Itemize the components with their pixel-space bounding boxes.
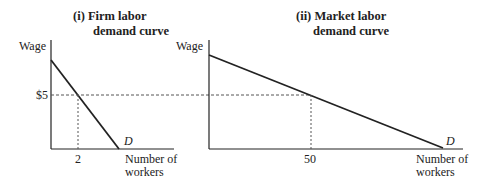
market-title-line1: (ii) Market labor	[296, 9, 387, 23]
market-y-axis-label: Wage	[176, 39, 203, 53]
firm-curve-label: D	[123, 134, 133, 148]
firm-panel: (i) Firm labor demand curve Wage $5 2 D …	[19, 9, 177, 179]
market-x-axis-label-line1: Number of	[416, 152, 468, 166]
market-x-axis-label-line2: workers	[416, 165, 455, 179]
firm-title-line1: (i) Firm labor	[73, 9, 147, 23]
wage-tick-label: $5	[36, 88, 48, 102]
firm-demand-curve	[51, 60, 119, 149]
firm-title-line2: demand curve	[93, 24, 169, 38]
market-quantity-tick: 50	[304, 152, 316, 166]
firm-x-axis-label-line2: workers	[125, 165, 164, 179]
market-demand-curve	[209, 55, 443, 148]
market-panel: (ii) Market labor demand curve Wage 50 D…	[176, 9, 468, 179]
labor-demand-diagram: (i) Firm labor demand curve Wage $5 2 D …	[0, 0, 481, 187]
firm-quantity-tick: 2	[75, 152, 81, 166]
market-curve-label: D	[445, 134, 455, 148]
market-title-line2: demand curve	[313, 24, 389, 38]
firm-x-axis-label-line1: Number of	[125, 152, 177, 166]
firm-y-axis-label: Wage	[19, 39, 46, 53]
